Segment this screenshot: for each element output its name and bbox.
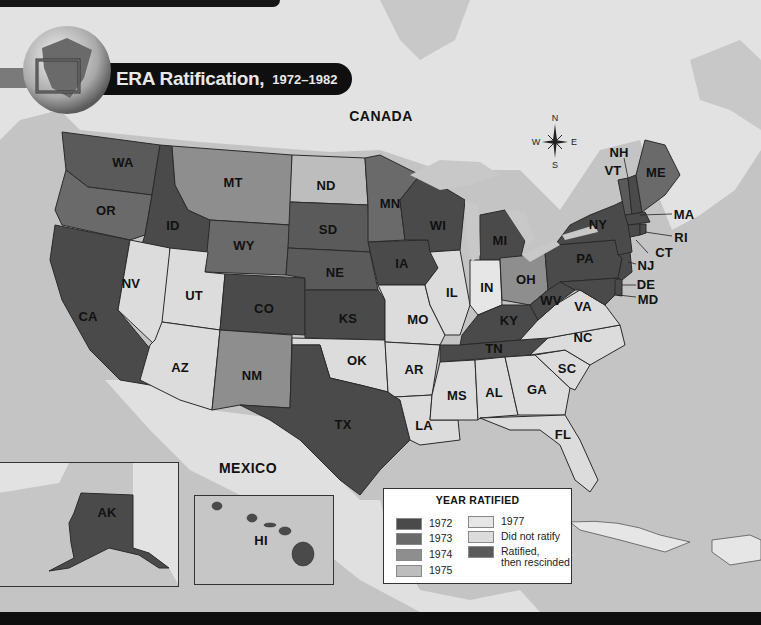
globe-locator-icon bbox=[22, 8, 112, 118]
label-CA: CA bbox=[78, 309, 97, 324]
legend-item-1977: 1977 bbox=[468, 516, 524, 528]
state-CT[interactable] bbox=[628, 224, 640, 237]
label-MS: MS bbox=[447, 388, 467, 403]
legend-item-1973: 1973 bbox=[396, 533, 452, 545]
label-WY: WY bbox=[233, 238, 254, 253]
label-OR: OR bbox=[96, 203, 116, 218]
title-main: ERA Ratification, bbox=[116, 68, 264, 90]
label-AK: AK bbox=[97, 505, 116, 520]
label-LA: LA bbox=[415, 418, 433, 433]
state-DE[interactable] bbox=[615, 278, 622, 296]
label-WV: WV bbox=[540, 293, 561, 308]
alaska-inset bbox=[0, 462, 179, 587]
label-AZ: AZ bbox=[171, 360, 189, 375]
legend-item-did-not-ratify: Did not ratify bbox=[468, 531, 560, 543]
label-ND: ND bbox=[316, 178, 335, 193]
state-RI[interactable] bbox=[640, 224, 646, 235]
label-HI: HI bbox=[254, 533, 267, 548]
label-FL: FL bbox=[555, 427, 571, 442]
legend: YEAR RATIFIED 1972 1973 1974 1975 1977 D… bbox=[383, 488, 572, 584]
label-WA: WA bbox=[112, 155, 133, 170]
svg-text:S: S bbox=[552, 160, 558, 170]
title-years: 1972–1982 bbox=[272, 72, 337, 87]
swatch-1972 bbox=[396, 518, 422, 530]
label-ID: ID bbox=[166, 218, 179, 233]
map-title: ERA Ratification, 1972–1982 bbox=[98, 63, 352, 95]
legend-item-1975: 1975 bbox=[396, 565, 452, 577]
label-UT: UT bbox=[185, 288, 203, 303]
label-AL: AL bbox=[485, 385, 503, 400]
label-NE: NE bbox=[326, 265, 344, 280]
legend-item-rescinded: Ratified, then rescinded bbox=[468, 546, 570, 568]
label-OK: OK bbox=[347, 353, 367, 368]
svg-text:E: E bbox=[571, 137, 577, 147]
label-AR: AR bbox=[404, 362, 423, 377]
label-OH: OH bbox=[516, 272, 536, 287]
label-PA: PA bbox=[576, 251, 594, 266]
label-NV: NV bbox=[122, 276, 140, 291]
swatch-1975 bbox=[396, 565, 422, 577]
legend-item-1974: 1974 bbox=[396, 549, 452, 561]
legend-item-1972: 1972 bbox=[396, 518, 452, 530]
label-MT: MT bbox=[223, 175, 242, 190]
label-NH: NH bbox=[609, 145, 628, 160]
label-NM: NM bbox=[242, 368, 263, 383]
swatch-rescinded bbox=[468, 546, 494, 558]
label-ME: ME bbox=[646, 165, 666, 180]
label-CT: CT bbox=[655, 245, 673, 260]
label-MO: MO bbox=[407, 312, 428, 327]
swatch-1977 bbox=[468, 516, 494, 528]
label-MD: MD bbox=[638, 292, 659, 307]
svg-text:W: W bbox=[532, 137, 541, 147]
label-TX: TX bbox=[334, 417, 351, 432]
label-DE: DE bbox=[637, 277, 655, 292]
svg-text:N: N bbox=[552, 113, 559, 123]
legend-title: YEAR RATIFIED bbox=[384, 494, 571, 506]
label-NJ: NJ bbox=[637, 258, 654, 273]
label-NC: NC bbox=[573, 330, 592, 345]
bottom-frame-bar bbox=[0, 612, 761, 625]
label-NY: NY bbox=[589, 217, 607, 232]
label-mexico: MEXICO bbox=[219, 460, 277, 476]
label-KY: KY bbox=[500, 313, 518, 328]
swatch-1973 bbox=[396, 533, 422, 545]
label-SC: SC bbox=[558, 361, 576, 376]
era-ratification-map: ERA Ratification, 1972–1982 CANADA MEXIC… bbox=[0, 0, 761, 625]
label-CO: CO bbox=[254, 301, 274, 316]
compass-rose-icon: N S W E bbox=[530, 112, 580, 170]
label-canada: CANADA bbox=[349, 108, 413, 124]
label-VA: VA bbox=[574, 299, 592, 314]
label-IN: IN bbox=[480, 280, 493, 295]
label-MN: MN bbox=[380, 196, 401, 211]
swatch-1974 bbox=[396, 549, 422, 561]
label-MI: MI bbox=[493, 233, 508, 248]
top-frame-bar bbox=[0, 0, 280, 7]
label-SD: SD bbox=[319, 222, 337, 237]
label-WI: WI bbox=[430, 218, 446, 233]
label-GA: GA bbox=[527, 382, 547, 397]
label-VT: VT bbox=[604, 163, 621, 178]
swatch-did-not-ratify bbox=[468, 531, 494, 543]
label-IA: IA bbox=[395, 256, 408, 271]
label-KS: KS bbox=[339, 311, 357, 326]
label-TN: TN bbox=[485, 341, 503, 356]
label-MA: MA bbox=[674, 207, 695, 222]
label-RI: RI bbox=[674, 230, 687, 245]
label-IL: IL bbox=[446, 285, 458, 300]
